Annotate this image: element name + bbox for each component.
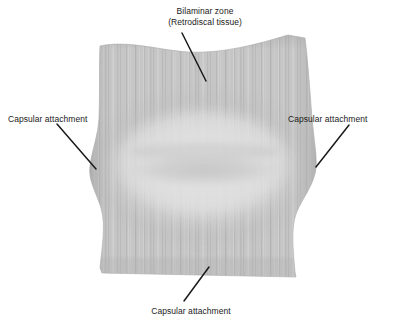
articular-disc-illustration <box>0 0 402 330</box>
label-bilaminar-zone: Bilaminar zone (Retrodiscal tissue) <box>146 6 264 28</box>
disc-body <box>80 25 330 290</box>
label-capsular-attachment-right: Capsular attachment <box>288 114 392 125</box>
leader-capsule-right <box>316 125 349 167</box>
label-capsular-attachment-left: Capsular attachment <box>8 114 104 125</box>
leader-capsule-left <box>57 124 96 169</box>
anatomical-figure: Bilaminar zone (Retrodiscal tissue) Caps… <box>0 0 402 330</box>
label-capsular-attachment-bottom: Capsular attachment <box>126 306 256 317</box>
transverse-band-upper <box>130 143 278 161</box>
